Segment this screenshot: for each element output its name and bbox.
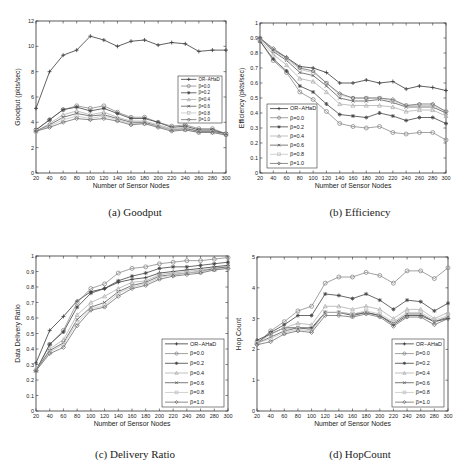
- svg-text:5: 5: [252, 254, 255, 260]
- svg-text:40: 40: [47, 413, 53, 419]
- svg-text:220: 220: [167, 175, 176, 181]
- y-axis-label: Goodput (pkts/sec): [14, 68, 22, 125]
- svg-text:200: 200: [375, 413, 384, 419]
- svg-text:80: 80: [74, 175, 80, 181]
- svg-text:1: 1: [252, 377, 255, 383]
- svg-text:260: 260: [196, 413, 205, 419]
- svg-text:240: 240: [181, 175, 190, 181]
- svg-text:200: 200: [155, 413, 164, 419]
- svg-text:120: 120: [322, 175, 331, 181]
- svg-text:100: 100: [86, 175, 95, 181]
- svg-text:180: 180: [362, 413, 371, 419]
- svg-text:140: 140: [334, 413, 343, 419]
- y-axis-label: Data Delivery Ratio: [14, 304, 22, 363]
- svg-text:260: 260: [194, 175, 203, 181]
- caption-delivery-ratio: (c) Delivery Ratio: [70, 448, 200, 460]
- svg-text:0.3: 0.3: [250, 125, 258, 131]
- y-axis-label: Efficiency (pkts/sec): [238, 68, 246, 128]
- svg-text:240: 240: [402, 175, 411, 181]
- caption-hopcount: (d) HopCount: [300, 448, 420, 460]
- svg-text:2: 2: [252, 346, 255, 352]
- svg-text:280: 280: [208, 175, 217, 181]
- svg-text:8: 8: [31, 69, 34, 75]
- svg-text:260: 260: [416, 413, 425, 419]
- svg-text:0.5: 0.5: [250, 95, 258, 101]
- svg-text:0.2: 0.2: [26, 377, 34, 383]
- legend-label: β=0.8: [416, 389, 430, 395]
- svg-text:0.4: 0.4: [26, 346, 34, 352]
- svg-text:180: 180: [362, 175, 371, 181]
- svg-text:0.9: 0.9: [26, 269, 34, 275]
- legend-label: β=0.4: [416, 370, 430, 376]
- figure: 2040608010012014016018020022024026028030…: [0, 0, 470, 474]
- svg-text:120: 120: [100, 413, 109, 419]
- svg-text:140: 140: [114, 413, 123, 419]
- svg-text:1: 1: [255, 20, 258, 26]
- legend-label: β=0.6: [190, 380, 204, 386]
- svg-text:280: 280: [428, 175, 437, 181]
- legend-label: β=0.6: [416, 380, 430, 386]
- delivery-ratio-chart: 2040608010012014016018020022024026028030…: [0, 235, 235, 445]
- legend-label: β=0.6: [290, 142, 304, 148]
- caption-efficiency: (b) Efficiency: [300, 206, 420, 218]
- svg-text:100: 100: [309, 175, 318, 181]
- svg-text:3: 3: [252, 316, 255, 322]
- legend-label: β=0.2: [198, 90, 210, 95]
- legend-label: OR−AHaD: [416, 341, 442, 347]
- legend-label: β=0.0: [290, 115, 304, 121]
- legend: OR−AHaDβ=0.0β=0.2β=0.4β=0.6β=0.8β=1.0: [392, 339, 444, 407]
- svg-text:180: 180: [141, 413, 150, 419]
- legend-label: β=0.4: [290, 133, 304, 139]
- svg-text:220: 220: [169, 413, 178, 419]
- svg-text:140: 140: [113, 175, 122, 181]
- svg-text:10: 10: [28, 43, 34, 49]
- legend: OR−AHaDβ=0.0β=0.2β=0.4β=0.6β=0.8β=1.0: [178, 76, 222, 123]
- legend-label: β=1.0: [290, 160, 304, 166]
- legend-label: β=0.0: [190, 350, 204, 356]
- svg-text:240: 240: [182, 413, 191, 419]
- y-axis-label: Hop Count: [235, 318, 243, 351]
- svg-text:0.5: 0.5: [26, 331, 34, 337]
- svg-text:120: 120: [99, 175, 108, 181]
- svg-text:60: 60: [60, 175, 66, 181]
- svg-text:6: 6: [31, 94, 34, 100]
- legend-label: β=0.8: [190, 389, 204, 395]
- legend-label: β=0.6: [198, 104, 210, 109]
- svg-text:160: 160: [348, 175, 357, 181]
- legend-label: β=1.0: [198, 117, 210, 122]
- svg-text:4: 4: [252, 285, 255, 291]
- svg-text:40: 40: [47, 175, 53, 181]
- legend-label: β=0.8: [290, 151, 304, 157]
- svg-text:0.7: 0.7: [250, 65, 258, 71]
- svg-text:80: 80: [74, 413, 80, 419]
- legend-label: β=0.0: [198, 84, 210, 89]
- svg-text:0.1: 0.1: [26, 393, 34, 399]
- svg-text:0.3: 0.3: [26, 362, 34, 368]
- x-axis-label: Number of Sensor Nodes: [314, 420, 391, 427]
- x-axis-label: Number of Sensor Nodes: [93, 182, 170, 189]
- svg-text:12: 12: [28, 18, 34, 24]
- svg-text:0.6: 0.6: [26, 315, 34, 321]
- legend-label: β=0.2: [290, 124, 304, 130]
- svg-text:0: 0: [31, 170, 34, 176]
- svg-text:0.8: 0.8: [250, 50, 258, 56]
- svg-text:40: 40: [270, 175, 276, 181]
- legend-label: β=0.0: [416, 350, 430, 356]
- svg-text:0: 0: [252, 408, 255, 414]
- svg-text:200: 200: [154, 175, 163, 181]
- svg-text:300: 300: [223, 413, 232, 419]
- svg-text:260: 260: [415, 175, 424, 181]
- legend-label: β=0.8: [198, 111, 210, 116]
- svg-text:0.8: 0.8: [26, 284, 34, 290]
- svg-text:120: 120: [321, 413, 330, 419]
- legend-label: β=0.4: [198, 97, 210, 102]
- svg-text:0.9: 0.9: [250, 35, 258, 41]
- legend-label: β=0.2: [416, 360, 430, 366]
- svg-text:100: 100: [86, 413, 95, 419]
- legend-label: OR−AHaD: [290, 105, 316, 111]
- svg-text:300: 300: [221, 175, 230, 181]
- legend-label: OR−AHaD: [198, 77, 220, 82]
- legend: OR−AHaDβ=0.0β=0.2β=0.4β=0.6β=0.8β=1.0: [162, 339, 224, 407]
- svg-text:60: 60: [284, 175, 290, 181]
- svg-text:0.2: 0.2: [250, 140, 258, 146]
